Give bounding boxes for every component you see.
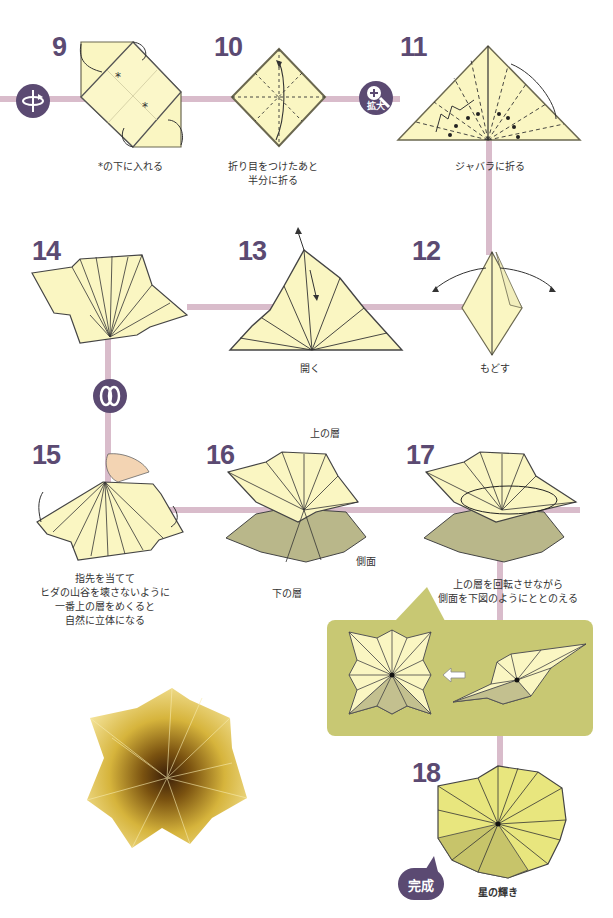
gold-star-photo — [82, 688, 262, 848]
zoom-in-badge: 拡大 — [359, 81, 393, 115]
step15-caption-line3: 一番上の層をめくると — [40, 600, 170, 614]
step15-caption: 指先を当てて ヒダの山谷を壊さないように 一番上の層をめくると 自然に立体になる — [40, 572, 170, 628]
done-label: 完成 — [408, 875, 434, 894]
label-bottom-layer: 下の層 — [272, 585, 302, 600]
done-badge: 完成 — [398, 868, 444, 900]
flip-over-badge — [16, 84, 50, 118]
magnify-plus-icon — [361, 85, 391, 103]
step9-mark-1: * — [115, 70, 121, 84]
step-number-18: 18 — [412, 758, 440, 789]
step15-caption-line1: 指先を当てて — [40, 572, 170, 586]
label-side: 側面 — [356, 553, 376, 568]
detail-unshaped-star — [451, 642, 591, 712]
flip-over-icon — [21, 89, 45, 113]
step17-diagram — [424, 452, 594, 572]
step15-caption-line4: 自然に立体になる — [40, 614, 170, 628]
step12-diagram — [430, 250, 570, 360]
step-number-9: 9 — [52, 32, 66, 63]
step9-mark-2: * — [142, 100, 148, 114]
step17-caption: 上の層を回転させながら 側面を下図のようにととのえる — [438, 578, 578, 606]
step15-diagram — [33, 452, 193, 562]
step11-diagram — [396, 44, 586, 144]
step18-finished-diagram — [438, 760, 578, 880]
detail-shaped-star — [347, 630, 437, 720]
rotate-icon — [97, 383, 123, 409]
step15-caption-line2: ヒダの山谷を壊さないように — [40, 586, 170, 600]
step10-caption-line2: 半分に折る — [228, 174, 318, 188]
step14-diagram — [32, 255, 192, 345]
step10-caption-line1: 折り目をつけたあと — [228, 160, 318, 174]
step13-caption: 開く — [300, 362, 320, 376]
detail-panel — [327, 620, 593, 736]
step18-caption: 星の輝き — [478, 886, 518, 900]
turn-badge — [93, 379, 127, 413]
step11-caption: ジャバラに折る — [455, 160, 525, 174]
step10-caption: 折り目をつけたあと 半分に折る — [228, 160, 318, 188]
detail-panel-pointer — [375, 585, 455, 625]
step10-diagram — [231, 48, 327, 148]
step9-diagram — [78, 40, 198, 160]
step13-diagram — [222, 228, 402, 358]
step9-caption: *の下に入れる — [98, 160, 163, 174]
label-top-layer: 上の層 — [310, 425, 340, 440]
step17-caption-line1: 上の層を回転させながら — [438, 578, 578, 592]
step17-caption-line2: 側面を下図のようにととのえる — [438, 592, 578, 606]
step12-caption: もどす — [480, 362, 510, 376]
